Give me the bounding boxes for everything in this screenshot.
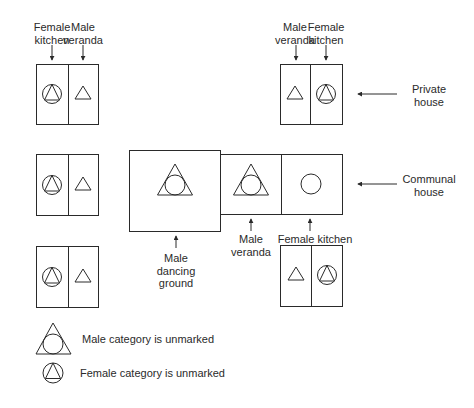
label-line: dancing [141, 265, 211, 278]
label-line: Female [296, 21, 356, 34]
arrows [52, 45, 397, 248]
private-house-top-left [37, 65, 99, 125]
triangle-icon [287, 86, 303, 99]
male-unmarked-icon [158, 164, 193, 195]
triangle-icon [288, 267, 304, 280]
triangle-icon [75, 269, 91, 282]
label-line: Communal [394, 173, 464, 186]
circle-icon [301, 174, 321, 194]
label-communal-house: Communal house [394, 173, 464, 198]
label-line: Private [394, 83, 464, 96]
label-female-kitchen-communal: Female kitchen [270, 233, 360, 246]
label-line: house [394, 96, 464, 109]
label-male-veranda-top-left: Male veranda [53, 21, 113, 46]
legend-female-unmarked-text: Female category is unmarked [80, 367, 225, 380]
label-line: Male [141, 252, 211, 265]
female-unmarked-icon [317, 85, 336, 104]
legend-female-unmarked-icon [43, 363, 63, 383]
triangle-icon [75, 86, 91, 99]
label-private-house: Private house [394, 83, 464, 108]
label-line: Male [53, 21, 113, 34]
legend-male-unmarked-icon [36, 323, 71, 354]
label-female-kitchen-top-right: Female kitchen [296, 21, 356, 46]
male-unmarked-icon [234, 164, 269, 195]
label-line: ground [141, 277, 211, 290]
female-unmarked-icon [43, 176, 62, 195]
female-unmarked-icon [318, 266, 337, 285]
label-male-dancing-ground: Male dancing ground [141, 252, 211, 290]
triangle-icon [75, 177, 91, 190]
private-house-top-right [281, 65, 343, 125]
diagram-drawing [0, 0, 474, 408]
female-unmarked-icon [43, 268, 62, 287]
label-line: veranda [53, 34, 113, 47]
communal-house [221, 155, 343, 215]
private-house-middle-left [37, 155, 99, 216]
label-line: kitchen [296, 34, 356, 47]
private-house-bottom-left [37, 247, 99, 308]
male-dancing-ground [130, 151, 221, 232]
private-house-bottom-right [281, 246, 343, 307]
legend-male-unmarked-text: Male category is unmarked [82, 333, 214, 346]
label-line: veranda [221, 246, 281, 259]
label-line: house [394, 186, 464, 199]
diagram: Female kitchen Male veranda Male veranda… [0, 0, 474, 408]
female-unmarked-icon [43, 85, 62, 104]
